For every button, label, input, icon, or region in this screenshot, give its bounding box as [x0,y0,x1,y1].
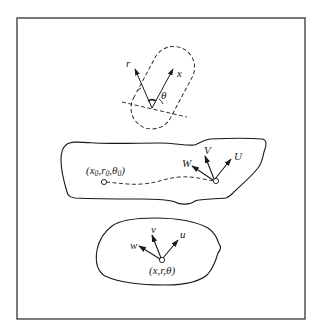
label-current-coords: (x,r,θ) [149,265,175,276]
trajectory-path [106,177,215,184]
current-point [159,257,164,262]
u-vector-arrow [163,240,178,258]
U-vector-arrow [215,159,231,179]
diagram-canvas [0,0,320,333]
label-U: U [234,151,242,162]
label-u: u [180,229,186,240]
probe-diagram [122,39,202,136]
label-r: r [126,58,130,69]
theta-arc-small [148,100,156,101]
label-x: x [177,68,182,79]
r-axis-arrow [135,69,152,108]
moving-point [213,178,218,183]
label-theta: θ [161,90,166,101]
label-W: W [182,158,191,169]
start-point [101,179,106,184]
label-V: V [204,145,211,156]
label-w: w [130,240,137,251]
label-start-coords: (x0,r0,θ0) [86,165,125,178]
label-v: v [151,224,156,235]
